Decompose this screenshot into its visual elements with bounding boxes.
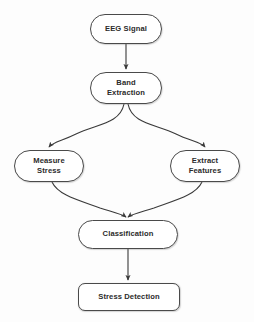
- node-extract-features[interactable]: Extract Features: [170, 150, 240, 182]
- edge-band-extraction-to-measure-stress: [49, 104, 124, 147]
- node-stress-detection-label: Stress Detection: [95, 292, 163, 302]
- node-eeg-signal-label: EEG Signal: [102, 24, 150, 34]
- node-band-extraction[interactable]: Band Extraction: [90, 72, 162, 104]
- edge-band-extraction-to-extract-features: [128, 104, 205, 147]
- node-measure-stress[interactable]: Measure Stress: [14, 150, 84, 182]
- node-eeg-signal[interactable]: EEG Signal: [90, 14, 162, 44]
- node-classification-label: Classification: [100, 229, 157, 239]
- edge-extract-features-to-classification: [128, 182, 202, 217]
- node-measure-stress-label: Measure Stress: [30, 156, 68, 176]
- node-band-extraction-label: Band Extraction: [104, 78, 148, 98]
- node-classification[interactable]: Classification: [78, 220, 178, 249]
- node-extract-features-label: Extract Features: [186, 156, 224, 176]
- node-stress-detection[interactable]: Stress Detection: [78, 283, 180, 311]
- flowchart-canvas: EEG Signal Band Extraction Measure Stres…: [0, 0, 254, 322]
- edge-measure-stress-to-classification: [52, 182, 126, 217]
